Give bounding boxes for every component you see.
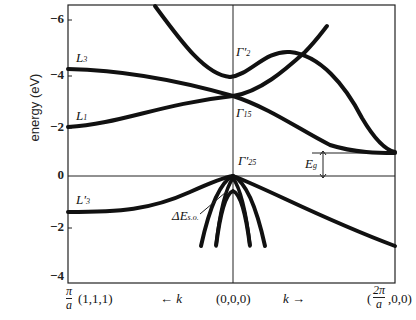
band-L1 [68,96,233,127]
band-L3 [68,69,233,96]
label-L1: L1 [76,108,87,124]
x-k-left: ← k [160,291,182,307]
label-gamma-prime-2: Γ′2 [236,44,250,60]
band-structure-figure: energy (eV) −6 −4 −2 0 −2 −4 L3 L1 L′3 Γ… [0,0,416,320]
band-gamma15-to-X [233,96,395,153]
y-tick-label: −6 [38,11,64,27]
band-upper-left [155,6,230,77]
label-Eg: Eg [305,156,317,172]
label-gamma-prime-25: Γ′25 [238,153,256,169]
x-right-open: ( [367,291,371,307]
x-k-right: k → [283,291,305,307]
y-tick-label: 0 [38,167,64,183]
plot-frame [68,5,395,283]
y-tick-label: −4 [38,67,64,83]
x-right-vector: ,0,0) [388,291,412,307]
label-L3: L3 [76,50,87,66]
x-left-fraction: π a [66,285,72,312]
y-tick-label: −2 [38,219,64,235]
y-tick-label: −2 [38,119,64,135]
label-delta-E-so: ΔEs.o. [172,208,199,224]
x-right-fraction: 2π a [373,284,385,311]
label-gamma-15: Γ15 [236,105,251,121]
x-center-gamma: (0,0,0) [216,291,251,307]
y-tick-label: −4 [38,268,64,284]
bands [68,6,395,246]
label-Lp3: L′3 [76,192,90,208]
x-left-vector: (1,1,1) [78,291,113,307]
